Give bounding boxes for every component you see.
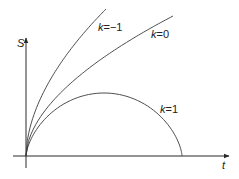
label-k-1: k=1	[160, 103, 178, 115]
label-k-minus-1: k=−1	[98, 21, 122, 33]
label-k-0: k=0	[151, 28, 169, 40]
expansion-diagram: S t k=−1 k=0 k=1	[0, 0, 239, 179]
s-axis-label: S	[17, 37, 25, 49]
t-axis-label: t	[222, 159, 226, 171]
curve-k-1	[26, 93, 182, 156]
curve-k-minus-1	[26, 9, 106, 156]
